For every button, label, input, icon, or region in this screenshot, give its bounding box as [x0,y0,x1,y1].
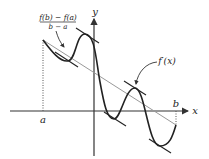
tangent-segment-4 [124,81,146,95]
tangent-segment-5 [149,139,171,153]
function-curve [43,34,176,146]
point-b-label: b [173,98,179,109]
y-axis-label: y [91,6,98,17]
tangent-label-arrow [136,62,157,84]
tangent-segment-1 [55,52,78,67]
secant-denominator: b − a [49,23,68,31]
x-axis-label: x [192,105,198,116]
tangent-label: f′(x) [157,56,176,66]
tangent-segment-3 [104,112,126,126]
secant-line [43,40,176,125]
tangent-segment-2 [76,28,99,43]
secant-numerator: f(b) − f(a) [38,13,77,22]
mean-value-theorem-diagram: y x a b f(b) − f(a) b − a f′(x) [0,0,209,159]
secant-label-arrow [56,31,64,47]
point-a-label: a [40,114,46,125]
